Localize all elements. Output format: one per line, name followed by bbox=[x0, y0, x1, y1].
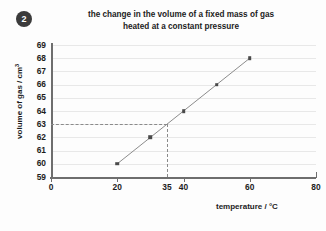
chart-title: the change in the volume of a fixed mass… bbox=[56, 9, 306, 32]
x-axis-label: temperature / °C bbox=[216, 202, 278, 211]
x-axis-tick-mark bbox=[51, 178, 52, 182]
data-point-marker bbox=[115, 162, 119, 166]
chart-title-line-1: the change in the volume of a fixed mass… bbox=[56, 9, 306, 21]
construction-line-horizontal bbox=[51, 124, 167, 125]
x-axis-tick-label: 40 bbox=[179, 183, 188, 191]
chart-page: 2 the change in the volume of a fixed ma… bbox=[0, 0, 326, 231]
x-axis-tick-label: 0 bbox=[49, 183, 54, 191]
y-axis-tick-label: 60 bbox=[37, 159, 46, 167]
data-point-marker bbox=[215, 83, 219, 87]
y-axis-tick-label: 59 bbox=[37, 173, 46, 181]
y-axis-tick-label: 61 bbox=[37, 146, 46, 154]
x-axis-tick-label: 20 bbox=[113, 183, 122, 191]
x-axis-tick-mark bbox=[316, 172, 317, 178]
y-axis-tick-label: 62 bbox=[37, 133, 46, 141]
y-axis-tick-label: 68 bbox=[37, 54, 46, 62]
x-axis-tick-label: 60 bbox=[245, 183, 254, 191]
x-axis-tick-mark bbox=[117, 178, 118, 182]
x-axis-tick-mark bbox=[250, 178, 251, 182]
y-axis-tick-label: 69 bbox=[37, 41, 46, 49]
y-axis-tick-label: 63 bbox=[37, 120, 46, 128]
y-axis-tick-label: 67 bbox=[37, 67, 46, 75]
construction-line-vertical bbox=[167, 124, 168, 177]
x-axis-tick-mark bbox=[184, 178, 185, 182]
data-point-marker bbox=[149, 136, 153, 140]
data-point-marker bbox=[248, 56, 252, 60]
data-point-marker bbox=[182, 109, 186, 113]
x-axis-tick-label: 35 bbox=[162, 183, 171, 191]
plot-area bbox=[51, 45, 316, 177]
x-axis-tick-label: 80 bbox=[311, 183, 320, 191]
y-axis-label-superscript: 3 bbox=[14, 64, 20, 67]
y-axis-tick-label: 65 bbox=[37, 93, 46, 101]
chart-title-line-2: heated at a constant pressure bbox=[56, 21, 306, 33]
y-axis-tick-labels: 5960616263646566676869 bbox=[20, 0, 46, 231]
y-axis-tick-label: 66 bbox=[37, 80, 46, 88]
y-axis-tick-label: 64 bbox=[37, 107, 46, 115]
